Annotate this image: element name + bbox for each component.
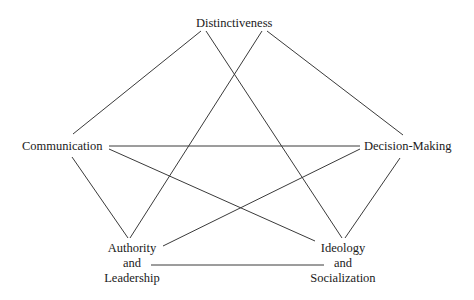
edge-decision-making-ideology — [345, 158, 400, 238]
edge-distinctiveness-communication — [73, 31, 201, 134]
node-label-line-2: and — [100, 256, 164, 271]
edge-distinctiveness-ideology — [206, 31, 342, 238]
node-label: Distinctiveness — [196, 16, 272, 31]
node-ideology-socialization: Ideology and Socialization — [305, 241, 381, 286]
node-label: Decision-Making — [364, 139, 451, 154]
edge-communication-ideology — [109, 149, 315, 241]
edge-decision-making-authority — [163, 149, 360, 246]
node-label-line-3: Socialization — [305, 271, 381, 286]
node-label-line-1: Ideology — [305, 241, 381, 256]
node-decision-making: Decision-Making — [364, 139, 451, 154]
node-communication: Communication — [22, 139, 103, 154]
edge-communication-authority — [72, 157, 128, 238]
node-label-line-1: Authority — [100, 241, 164, 256]
node-label-line-2: and — [305, 256, 381, 271]
node-distinctiveness: Distinctiveness — [196, 16, 272, 31]
node-authority-leadership: Authority and Leadership — [100, 241, 164, 286]
node-label-line-3: Leadership — [100, 271, 164, 286]
edge-distinctiveness-decision-making — [267, 31, 403, 135]
node-label: Communication — [22, 139, 103, 154]
